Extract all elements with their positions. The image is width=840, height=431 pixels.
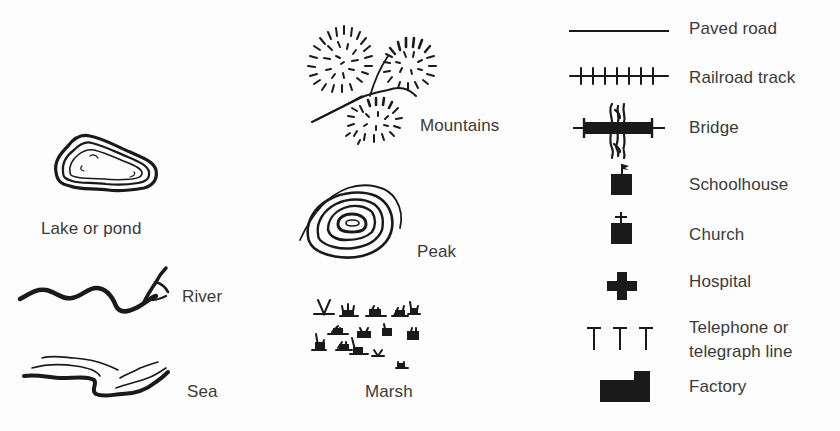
railroad-track-icon [569, 65, 669, 87]
paved-road-icon [568, 28, 670, 34]
marsh-icon [312, 298, 442, 378]
river-icon [16, 264, 168, 320]
railroad-track-label: Railroad track [689, 68, 795, 88]
telephone-line-label-line2: telegraph line [689, 342, 792, 362]
factory-label: Factory [689, 377, 746, 397]
hospital-icon [607, 272, 637, 300]
map-legend: Lake or pond River Sea [0, 0, 840, 431]
bridge-label: Bridge [689, 118, 739, 138]
bridge-icon [572, 102, 666, 158]
lake-icon [50, 128, 162, 204]
church-label: Church [689, 225, 744, 245]
factory-icon [600, 371, 652, 403]
schoolhouse-label: Schoolhouse [689, 175, 788, 195]
river-label: River [182, 287, 222, 307]
hospital-label: Hospital [689, 272, 751, 292]
church-icon [609, 211, 635, 245]
telephone-line-icon [587, 326, 653, 352]
mountains-label: Mountains [420, 116, 499, 136]
lake-label: Lake or pond [41, 219, 141, 239]
marsh-label: Marsh [365, 382, 413, 402]
paved-road-label: Paved road [689, 19, 777, 39]
sea-icon [22, 354, 172, 402]
telephone-line-label-line1: Telephone or [689, 318, 789, 338]
peak-label: Peak [417, 242, 456, 262]
peak-icon [296, 178, 408, 268]
schoolhouse-icon [609, 162, 635, 196]
sea-label: Sea [187, 382, 218, 402]
